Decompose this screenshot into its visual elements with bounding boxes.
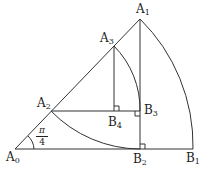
- geometry-diagram: A0 A1 A2 A3 B1 B2 B3 B4 π 4: [0, 0, 203, 173]
- right-angle-b3: [135, 111, 140, 116]
- label-a3: A3: [100, 32, 114, 46]
- label-b2: B2: [133, 153, 147, 167]
- label-a2: A2: [37, 97, 51, 111]
- right-angle-b4: [114, 106, 119, 111]
- arc-a2-b2: [51, 111, 140, 149]
- label-a1: A1: [136, 3, 150, 17]
- label-b1: B1: [186, 152, 200, 166]
- angle-denominator: 4: [39, 137, 45, 147]
- diagram-lines: [0, 0, 203, 173]
- angle-numerator: π: [39, 125, 45, 135]
- arc-a1-b1: [140, 19, 193, 149]
- angle-label: π 4: [36, 126, 48, 147]
- right-angle-b2: [140, 144, 145, 149]
- label-b4: B4: [108, 116, 122, 130]
- angle-arc: [28, 136, 34, 149]
- label-b3: B3: [144, 104, 158, 118]
- label-a0: A0: [6, 151, 20, 165]
- arc-a3-b3: [114, 46, 140, 111]
